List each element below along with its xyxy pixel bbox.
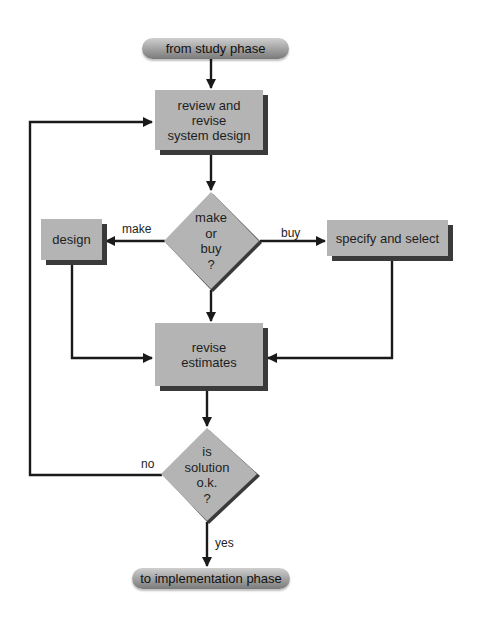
start-terminal: from study phase <box>142 38 289 59</box>
make-or-buy-line-4: ? <box>181 257 241 273</box>
make-or-buy-line-3: buy <box>181 241 241 257</box>
start-label: from study phase <box>166 41 266 56</box>
end-label: to implementation phase <box>140 571 282 586</box>
revise-estimates-box: revise estimates <box>155 323 263 386</box>
specify-and-select-box: specify and select <box>327 220 448 256</box>
design-box: design <box>41 219 102 260</box>
make-or-buy-line-2: or <box>181 226 241 242</box>
solution-ok-text: is solution o.k. ? <box>172 444 242 506</box>
solution-ok-line-3: o.k. <box>172 475 242 491</box>
review-system-design-box: review and revise system design <box>155 90 263 150</box>
arrow-design-to-estimates <box>72 264 152 358</box>
edge-label-make: make <box>122 222 151 236</box>
flowchart: from study phase review and revise syste… <box>0 0 479 620</box>
end-terminal: to implementation phase <box>132 568 290 589</box>
review-label-line-2: revise <box>167 113 250 128</box>
solution-ok-line-4: ? <box>172 491 242 507</box>
make-or-buy-text: make or buy ? <box>181 210 241 272</box>
make-or-buy-line-1: make <box>181 210 241 226</box>
solution-ok-line-2: solution <box>172 460 242 476</box>
arrow-specify-to-estimates <box>268 260 392 358</box>
arrow-no-loop <box>30 122 162 475</box>
review-label-line-1: review and <box>167 98 250 113</box>
revise-estimates-line-2: estimates <box>181 355 237 370</box>
revise-estimates-line-1: revise <box>181 340 237 355</box>
edge-label-no: no <box>141 457 154 471</box>
design-label: design <box>52 232 90 247</box>
specify-label: specify and select <box>336 231 439 246</box>
solution-ok-line-1: is <box>172 444 242 460</box>
review-label-line-3: system design <box>167 128 250 143</box>
edge-label-buy: buy <box>281 226 300 240</box>
edge-label-yes: yes <box>215 536 234 550</box>
